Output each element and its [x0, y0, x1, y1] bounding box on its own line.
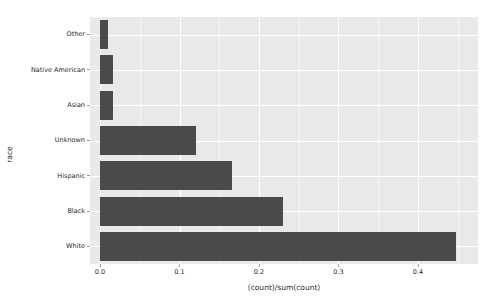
y-tick-label: Asian — [67, 102, 85, 109]
x-tick-0.1: 0.1 — [174, 264, 184, 276]
x-tick-label: 0.3 — [333, 269, 343, 276]
x-tick-mark — [258, 264, 259, 267]
y-axis: WhiteBlackHispanicUnknownAsianNative Ame… — [0, 17, 90, 264]
x-tick-mark — [179, 264, 180, 267]
gridline-major-horizontal — [90, 70, 478, 71]
bar-native-american — [100, 55, 113, 84]
x-tick-0.2: 0.2 — [254, 264, 264, 276]
bar-asian — [100, 91, 113, 120]
x-tick-0.0: 0.0 — [95, 264, 105, 276]
x-tick-0.3: 0.3 — [333, 264, 343, 276]
x-tick-0.4: 0.4 — [413, 264, 423, 276]
gridline-major-horizontal — [90, 35, 478, 36]
y-tick-label: Hispanic — [57, 173, 85, 180]
bar-hispanic — [100, 161, 232, 190]
bar-unknown — [100, 126, 196, 155]
bar-white — [100, 232, 456, 261]
plot-panel — [90, 17, 478, 264]
y-tick-label: Black — [67, 208, 85, 215]
bar-black — [100, 197, 283, 226]
x-tick-mark — [338, 264, 339, 267]
x-axis: 0.00.10.20.30.4 — [90, 264, 478, 282]
gridline-major-horizontal — [90, 105, 478, 106]
y-tick-label: Native American — [31, 67, 85, 74]
x-tick-label: 0.4 — [413, 269, 423, 276]
bar-chart: race WhiteBlackHispanicUnknownAsianNativ… — [0, 0, 498, 308]
x-tick-mark — [100, 264, 101, 267]
x-tick-mark — [417, 264, 418, 267]
y-tick-label: Unknown — [55, 137, 85, 144]
x-tick-label: 0.1 — [174, 269, 184, 276]
y-tick-label: White — [66, 243, 85, 250]
x-tick-label: 0.2 — [254, 269, 264, 276]
x-axis-title: (count)/sum(count) — [90, 283, 478, 292]
y-tick-label: Other — [67, 31, 85, 38]
x-tick-label: 0.0 — [95, 269, 105, 276]
bar-other — [100, 20, 108, 49]
